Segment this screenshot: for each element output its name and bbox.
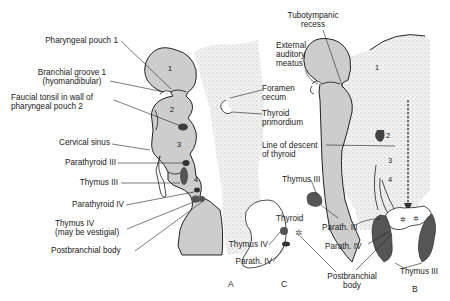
label-pharyngeal-pouch-1: Pharyngeal pouch 1: [45, 36, 118, 46]
parath-iv-c: [282, 242, 290, 247]
label-body-b: body: [317, 281, 387, 291]
label-parathyroid-iv: Parathyroid IV: [72, 200, 124, 210]
diagram-a: 1 2 3 4: [110, 40, 264, 255]
label-faucial-tonsil-2: pharyngeal pouch 2: [11, 102, 83, 112]
label-parath-iii: Parath. III: [322, 223, 358, 233]
postbranchial-c: ✲: [295, 228, 303, 238]
parathyroid-iv-a: [194, 188, 200, 193]
label-thymus-iii-c: Thymus III: [282, 175, 320, 185]
thymus-iii-a: [180, 167, 188, 185]
label-recess: recess: [278, 20, 348, 30]
b-number-3: 3: [388, 156, 392, 165]
thymus-iv-c: [280, 227, 288, 235]
pouch-number-2: 2: [170, 105, 175, 114]
postbranchial-a: [199, 196, 205, 202]
thymus-iii-c: [307, 192, 323, 207]
label-parath-iv-b: Parath. IV: [325, 242, 361, 252]
pharynx-floor-b: [340, 35, 430, 230]
svg-text:✲: ✲: [413, 215, 419, 222]
label-thymus-iii-b: Thymus III: [384, 267, 450, 277]
label-parathyroid-iii: Parathyroid III: [65, 158, 116, 168]
label-postbranchial-body-a: Postbranchial body: [51, 246, 121, 256]
label-hyomandibular: (hyomandibular): [32, 77, 112, 87]
panel-label-a: A: [228, 279, 234, 289]
label-thymus-iii: Thymus III: [80, 178, 118, 188]
label-cervical-sinus: Cervical sinus: [59, 138, 110, 148]
label-parath-iv-c: Parath. IV: [236, 257, 272, 267]
b-number-4: 4: [388, 175, 392, 184]
pouch-number-3: 3: [177, 140, 182, 149]
pouch-number-4: 4: [194, 175, 199, 184]
svg-text:✲: ✲: [400, 216, 406, 223]
b-number-2: 2: [386, 131, 390, 140]
b-number-1: 1: [375, 63, 379, 72]
label-of-thyroid: of thyroid: [262, 150, 296, 160]
label-meatus: meatus: [276, 59, 303, 69]
panel-label-c: C: [281, 279, 287, 289]
faucial-tonsil: [178, 124, 188, 131]
label-thymus-iv-c: Thymus IV: [229, 240, 268, 250]
pouch-number-1: 1: [168, 64, 173, 73]
label-cecum: cecum: [262, 93, 286, 103]
label-thyroid-c: Thyroid: [276, 214, 303, 224]
panel-label-b: B: [412, 284, 418, 294]
label-may-be-vestigial: (may be vestigial): [55, 228, 119, 238]
label-primordium: primordium: [262, 118, 303, 128]
parathyroid-iii-a: [183, 160, 190, 166]
diagram-b: ✲ ✲ 1 2 3 4: [304, 30, 436, 270]
